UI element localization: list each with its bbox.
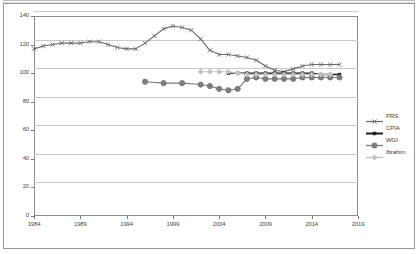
- chart-canvas: [13, 11, 409, 247]
- chart-legend: PRSCPIAWGIIbrahim: [365, 110, 420, 158]
- legend-item-wgi[interactable]: WGI: [365, 134, 420, 146]
- legend-label: PRS: [386, 113, 398, 120]
- legend-swatch-icon: [365, 136, 384, 145]
- legend-label: WGI: [386, 137, 398, 144]
- legend-swatch-icon: [365, 112, 384, 121]
- legend-item-prs[interactable]: PRS: [365, 110, 420, 122]
- legend-item-cpia[interactable]: CPIA: [365, 122, 420, 134]
- series-wgi: [142, 75, 342, 93]
- series-prs: [32, 24, 342, 74]
- figure-frame: 1401201008060402001984198919941999200420…: [3, 3, 415, 249]
- chart-container: 1401201008060402001984198919941999200420…: [13, 11, 409, 247]
- legend-label: Ibrahim: [386, 149, 405, 156]
- top-rule: [3, 0, 415, 1]
- legend-swatch-icon: [365, 124, 384, 133]
- series-ibrahim: [198, 69, 334, 78]
- legend-swatch-icon: [365, 148, 384, 157]
- legend-item-ibrahim[interactable]: Ibrahim: [365, 146, 420, 158]
- legend-label: CPIA: [386, 125, 400, 132]
